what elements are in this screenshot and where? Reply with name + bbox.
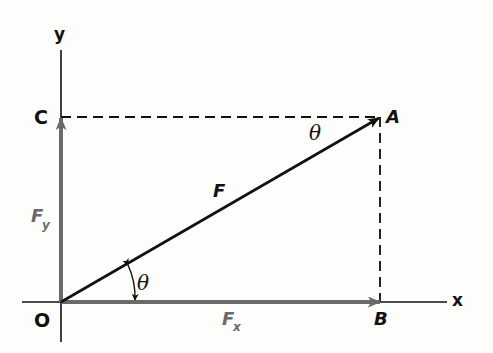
angle-arc-origin [128, 265, 135, 300]
fy-subscript: y [42, 218, 51, 232]
resultant-label-f: F [213, 180, 226, 201]
x-axis-label: x [452, 290, 463, 310]
fx-label: F x [222, 308, 242, 334]
point-o-label: O [34, 309, 50, 331]
y-axis-label: y [54, 24, 65, 44]
theta-label-tip: θ [309, 121, 321, 145]
point-a-label: A [384, 106, 400, 127]
fy-label: F y [31, 205, 51, 232]
point-c-label: C [34, 106, 48, 128]
theta-label-origin: θ [137, 271, 149, 295]
resultant-vector-f [61, 118, 379, 302]
force-resolution-diagram: y x C O A B F F x F y θ θ [0, 0, 493, 353]
fx-subscript: x [232, 320, 242, 334]
point-b-label: B [374, 308, 388, 329]
